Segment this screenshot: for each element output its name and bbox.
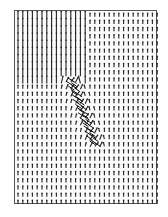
arrowhead-icon [94, 178, 96, 180]
arrowhead-icon [70, 156, 72, 158]
arrowhead-icon [65, 106, 67, 108]
arrowhead-icon [123, 41, 125, 43]
arrowhead-icon [75, 149, 77, 151]
arrowhead-icon [137, 34, 139, 36]
arrowhead-icon [132, 142, 134, 144]
arrowhead-icon [80, 11, 82, 12]
arrowhead-icon [36, 178, 38, 180]
arrowhead-icon [17, 99, 19, 101]
arrowhead-icon [123, 120, 125, 122]
arrowhead-icon [142, 27, 144, 29]
arrowhead-icon [108, 34, 110, 36]
arrowhead-icon [46, 128, 48, 130]
arrowhead-icon [152, 56, 154, 58]
arrowhead-icon [123, 164, 125, 166]
arrowhead-icon [76, 120, 78, 122]
arrowhead-icon [94, 27, 96, 29]
arrowhead-icon [152, 84, 154, 86]
arrowhead-icon [94, 156, 96, 158]
arrowhead-icon [22, 200, 24, 202]
arrowhead-icon [94, 99, 96, 101]
arrowhead-icon [22, 149, 24, 151]
arrowhead-icon [142, 178, 144, 180]
arrowhead-icon [128, 200, 130, 202]
arrowhead-icon [142, 185, 144, 187]
arrowhead-icon [17, 120, 19, 122]
arrowhead-icon [104, 120, 106, 122]
arrowhead-icon [113, 27, 115, 29]
arrowhead-icon [142, 77, 144, 79]
arrowhead-icon [82, 91, 84, 93]
arrowhead-icon [113, 156, 115, 158]
vector-field [15, 11, 158, 205]
arrowhead-icon [137, 135, 139, 137]
arrowhead-icon [51, 18, 53, 20]
arrowhead-icon [123, 156, 125, 158]
arrowhead-icon [60, 135, 62, 137]
arrowhead-icon [108, 48, 110, 50]
arrowhead-icon [96, 127, 98, 129]
arrowhead-icon [36, 92, 38, 94]
arrowhead-icon [46, 18, 48, 20]
arrowhead-icon [152, 120, 154, 122]
arrowhead-icon [32, 106, 34, 108]
arrowhead-icon [123, 192, 125, 194]
arrowhead-icon [75, 178, 77, 180]
arrowhead-icon [56, 120, 58, 122]
arrowhead-icon [56, 25, 58, 27]
arrowhead-icon [75, 135, 77, 137]
arrowhead-icon [128, 128, 130, 130]
arrowhead-icon [32, 171, 34, 173]
arrowhead-icon [99, 156, 101, 158]
arrowhead-icon [123, 63, 125, 65]
arrowhead-icon [60, 164, 62, 166]
arrowhead-icon [80, 149, 82, 151]
arrowhead-icon [94, 149, 96, 151]
arrowhead-icon [147, 63, 149, 65]
arrowhead-icon [86, 134, 88, 136]
arrowhead-icon [32, 113, 34, 115]
arrowhead-icon [89, 20, 91, 22]
arrowhead-icon [118, 106, 120, 108]
arrowhead-icon [51, 156, 53, 158]
arrowhead-icon [36, 32, 38, 34]
arrowhead-icon [132, 178, 134, 180]
arrowhead-icon [51, 11, 53, 12]
arrowhead-icon [99, 164, 101, 166]
arrowhead-icon [104, 192, 106, 194]
arrowhead-icon [156, 156, 158, 158]
arrowhead-icon [60, 92, 62, 94]
arrowhead-icon [113, 142, 115, 144]
arrowhead-icon [80, 135, 82, 137]
arrowhead-icon [84, 92, 86, 94]
arrowhead-icon [22, 18, 24, 20]
arrowhead-icon [104, 99, 106, 101]
arrowhead-icon [104, 84, 106, 86]
arrowhead-icon [41, 192, 43, 194]
arrowhead-icon [86, 98, 88, 100]
arrowhead-icon [108, 178, 110, 180]
arrowhead-icon [147, 92, 149, 94]
arrowhead-icon [104, 149, 106, 151]
arrowhead-icon [137, 63, 139, 65]
arrowhead-icon [152, 171, 154, 173]
arrowhead-icon [80, 54, 82, 56]
arrowhead-icon [27, 47, 29, 49]
arrowhead-icon [132, 120, 134, 122]
arrowhead-icon [99, 84, 101, 86]
arrowhead-icon [36, 68, 38, 70]
arrowhead-icon [41, 11, 43, 12]
arrowhead-icon [99, 77, 101, 79]
arrowhead-icon [137, 164, 139, 166]
arrowhead-icon [108, 156, 110, 158]
arrowhead-icon [99, 12, 101, 14]
arrowhead-icon [65, 185, 67, 187]
arrowhead-icon [108, 200, 110, 202]
arrowhead-icon [17, 47, 19, 49]
arrowhead-icon [46, 149, 48, 151]
arrowhead-icon [27, 99, 29, 101]
arrowhead-icon [128, 20, 130, 22]
arrowhead-icon [113, 92, 115, 94]
arrowhead-icon [137, 41, 139, 43]
arrowhead-icon [147, 156, 149, 158]
